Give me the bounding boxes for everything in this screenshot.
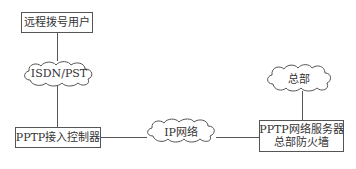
edge-isdn-to-controller <box>57 86 58 127</box>
pptp-controller-box: PPTP接入控制器 <box>15 127 101 148</box>
ip-network-cloud: IP网络 <box>145 118 217 143</box>
edge-ip-to-server <box>216 137 259 138</box>
remote-user-box: 远程拨号用户 <box>21 12 93 33</box>
isdn-cloud-label: ISDN/PST <box>31 67 87 80</box>
ip-network-label: IP网络 <box>164 123 198 139</box>
pptp-server-label-line1: PPTP网络服务器 <box>259 123 344 136</box>
pptp-controller-label: PPTP接入控制器 <box>16 131 101 144</box>
edge-controller-to-ip <box>101 137 147 138</box>
hq-cloud: 总部 <box>265 63 333 92</box>
edge-user-to-isdn <box>57 32 58 61</box>
pptp-server-box: PPTP网络服务器 总部防火墙 <box>259 120 344 152</box>
edge-hq-to-server <box>302 91 303 120</box>
pptp-server-label-line2: 总部防火墙 <box>274 136 329 149</box>
isdn-cloud: ISDN/PST <box>22 60 96 87</box>
remote-user-label: 远程拨号用户 <box>24 16 90 29</box>
hq-cloud-label: 总部 <box>288 70 310 86</box>
